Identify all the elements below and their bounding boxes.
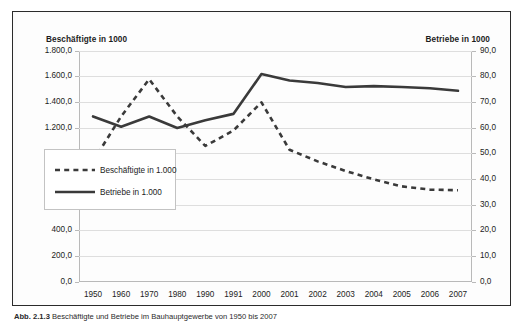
right-axis-tick: [472, 76, 476, 77]
right-axis-tick-label: 80,0: [480, 72, 496, 80]
x-axis-tick-label: 1990: [196, 291, 214, 299]
x-axis-tick-label: 2003: [337, 291, 355, 299]
right-axis-tick-label: 0,0: [480, 278, 491, 286]
figure-caption-number: Abb. 2.1.3: [14, 312, 50, 321]
right-axis-title: Betriebe in 1000: [426, 35, 490, 44]
left-axis-tick-label: 200,0: [52, 252, 73, 260]
figure-caption-text: Beschäftigte und Betriebe im Bauhauptgew…: [52, 312, 277, 321]
right-axis-tick: [472, 256, 476, 257]
right-axis-tick-label: 20,0: [480, 226, 496, 234]
right-axis-tick-label: 30,0: [480, 201, 496, 209]
legend-item-betriebe: Betriebe in 1.000: [45, 181, 175, 203]
right-axis-tick-label: 40,0: [480, 175, 496, 183]
legend-label-betriebe: Betriebe in 1.000: [100, 188, 162, 197]
right-axis-tick: [472, 282, 476, 283]
x-axis-tick-label: 2005: [393, 291, 411, 299]
chart-legend: Beschäftigte in 1.000 Betriebe in 1.000: [44, 149, 176, 210]
right-axis-tick-label: 90,0: [480, 47, 496, 55]
x-axis-tick-label: 1960: [112, 291, 130, 299]
left-axis-tick-label: 1.600,0: [45, 72, 72, 80]
x-axis-tick-label: 1980: [168, 291, 186, 299]
right-axis-tick-label: 10,0: [480, 252, 496, 260]
right-axis-tick: [472, 153, 476, 154]
right-axis-tick: [472, 102, 476, 103]
x-axis-tick-label: 2002: [308, 291, 326, 299]
right-axis-tick: [472, 51, 476, 52]
x-axis-tick-label: 1991: [224, 291, 242, 299]
right-axis-tick-label: 60,0: [480, 124, 496, 132]
figure-caption: Abb. 2.1.3 Beschäftigte und Betriebe im …: [14, 312, 514, 321]
x-axis-tick-label: 2001: [280, 291, 298, 299]
legend-dashed-key-icon: [54, 165, 96, 175]
x-axis-tick-label: 1970: [140, 291, 158, 299]
left-axis-tick-label: 1.200,0: [45, 124, 72, 132]
right-axis-tick: [472, 128, 476, 129]
legend-solid-key-icon: [54, 187, 96, 197]
left-axis-tick-label: 1.800,0: [45, 47, 72, 55]
chart-figure: Beschäftigte in 1000 Betriebe in 1000 0,…: [12, 11, 511, 306]
x-axis-tick-label: 2007: [449, 291, 467, 299]
x-axis-tick-label: 1950: [84, 291, 102, 299]
x-axis-tick-label: 2000: [252, 291, 270, 299]
left-axis-tick-label: 0,0: [61, 278, 72, 286]
left-axis-tick-label: 1.400,0: [45, 98, 72, 106]
legend-item-beschaeftigte: Beschäftigte in 1.000: [45, 159, 175, 181]
left-axis-tick-label: 400,0: [52, 226, 73, 234]
right-axis-tick: [472, 179, 476, 180]
right-axis-tick-label: 50,0: [480, 149, 496, 157]
left-axis-title: Beschäftigte in 1000: [46, 35, 127, 44]
legend-label-beschaeftigte: Beschäftigte in 1.000: [100, 166, 176, 175]
right-axis-tick-label: 70,0: [480, 98, 496, 106]
x-axis-tick-label: 2004: [365, 291, 383, 299]
x-axis-tick-label: 2006: [421, 291, 439, 299]
right-axis-tick: [472, 205, 476, 206]
right-axis-tick: [472, 230, 476, 231]
